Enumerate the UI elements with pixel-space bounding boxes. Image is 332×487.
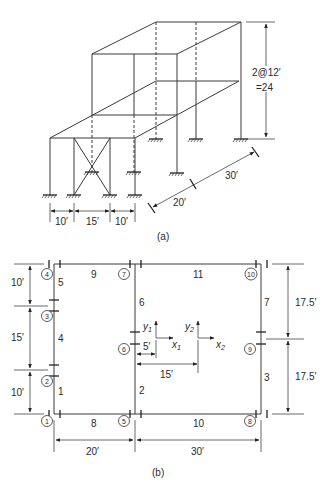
support-icon [42, 195, 57, 198]
support-icon [233, 139, 248, 142]
offset-dim-15: 15′ [160, 369, 173, 380]
svg-text:9: 9 [248, 346, 252, 353]
bottom-dim-20: 20′ [86, 446, 99, 457]
width-dimension: 10′ 15′ 10′ [50, 203, 135, 227]
members [54, 264, 261, 414]
left-dim-10a: 10′ [11, 277, 24, 288]
member-4: 4 [58, 333, 64, 344]
local-axes-2: y2 x2 [184, 321, 225, 351]
member-end-marks [49, 260, 267, 418]
member-1: 1 [58, 386, 64, 397]
frame-3d-view: 2@12′ =24 20′ 30′ 10′ 15′ 10′ (a) [42, 22, 284, 242]
support-icon [126, 172, 141, 175]
member-6: 6 [139, 297, 145, 308]
support-icon [169, 173, 184, 176]
svg-text:1: 1 [45, 418, 49, 425]
joint-5: 5 [119, 416, 130, 427]
svg-text:x1: x1 [171, 339, 181, 351]
joint-3: 3 [42, 311, 53, 322]
bottom-dimensions: 20′ 30′ [54, 420, 261, 457]
joint-9: 9 [245, 344, 256, 355]
height-dim-label-2: =24 [256, 82, 273, 93]
joint-8: 8 [245, 416, 256, 427]
width-dim-15: 15′ [86, 216, 99, 227]
depth-dimension: 20′ 30′ [148, 147, 259, 213]
member-7: 7 [264, 297, 270, 308]
svg-text:10: 10 [247, 271, 255, 278]
height-dimension: 2@12′ =24 [246, 22, 284, 139]
joint-10: 10 [245, 268, 257, 280]
height-dim-label-1: 2@12′ [252, 67, 281, 78]
caption-a: (a) [157, 231, 169, 242]
svg-text:8: 8 [248, 418, 252, 425]
support-icon [188, 139, 203, 142]
offset-dimensions: 5′ 15′ [137, 340, 198, 380]
roof-level [92, 22, 241, 54]
width-dim-10a: 10′ [55, 216, 68, 227]
support-icon [148, 139, 163, 142]
joint-4: 4 [42, 269, 53, 280]
fixed-supports [42, 139, 248, 198]
caption-b: (b) [152, 467, 164, 478]
svg-text:6: 6 [122, 346, 126, 353]
member-9: 9 [91, 269, 97, 280]
joint-7: 7 [119, 269, 130, 280]
member-2: 2 [139, 385, 145, 396]
member-5: 5 [58, 277, 64, 288]
structural-figure: 2@12′ =24 20′ 30′ 10′ 15′ 10′ (a) [0, 0, 332, 487]
svg-text:3: 3 [45, 313, 49, 320]
svg-text:7: 7 [122, 271, 126, 278]
depth-dim-20: 20′ [173, 197, 186, 208]
right-dimensions: 17.5′ 17.5′ [266, 264, 316, 414]
svg-text:2: 2 [45, 378, 49, 385]
support-icon [127, 195, 142, 198]
depth-dim-30: 30′ [225, 170, 238, 181]
left-dim-15: 15′ [11, 332, 24, 343]
right-dim-17-5a: 17.5′ [295, 297, 316, 308]
svg-text:y2: y2 [184, 321, 194, 333]
member-labels: 1 2 3 4 5 6 7 8 9 10 11 [58, 269, 270, 429]
left-dimensions: 10′ 15′ 10′ [10, 264, 48, 414]
right-dim-17-5b: 17.5′ [295, 371, 316, 382]
joint-6: 6 [119, 344, 130, 355]
svg-text:5: 5 [122, 418, 126, 425]
offset-dim-5: 5′ [143, 341, 151, 352]
joint-2: 2 [42, 376, 53, 387]
svg-text:y1: y1 [142, 321, 152, 333]
support-icon [102, 195, 117, 198]
member-11: 11 [193, 269, 204, 280]
columns [50, 22, 241, 195]
width-dim-10b: 10′ [115, 216, 128, 227]
support-icon [66, 195, 81, 198]
svg-text:4: 4 [45, 271, 49, 278]
member-10: 10 [193, 418, 205, 429]
joint-1: 1 [42, 416, 53, 427]
plan-view: 1 2 3 4 5 6 7 8 9 10 1 2 3 4 5 6 7 8 9 1… [10, 260, 316, 478]
member-3: 3 [264, 372, 270, 383]
member-8: 8 [91, 418, 97, 429]
svg-text:x2: x2 [215, 339, 225, 351]
bottom-dim-30: 30′ [191, 446, 204, 457]
second-floor-level [50, 81, 239, 138]
left-dim-10b: 10′ [11, 387, 24, 398]
